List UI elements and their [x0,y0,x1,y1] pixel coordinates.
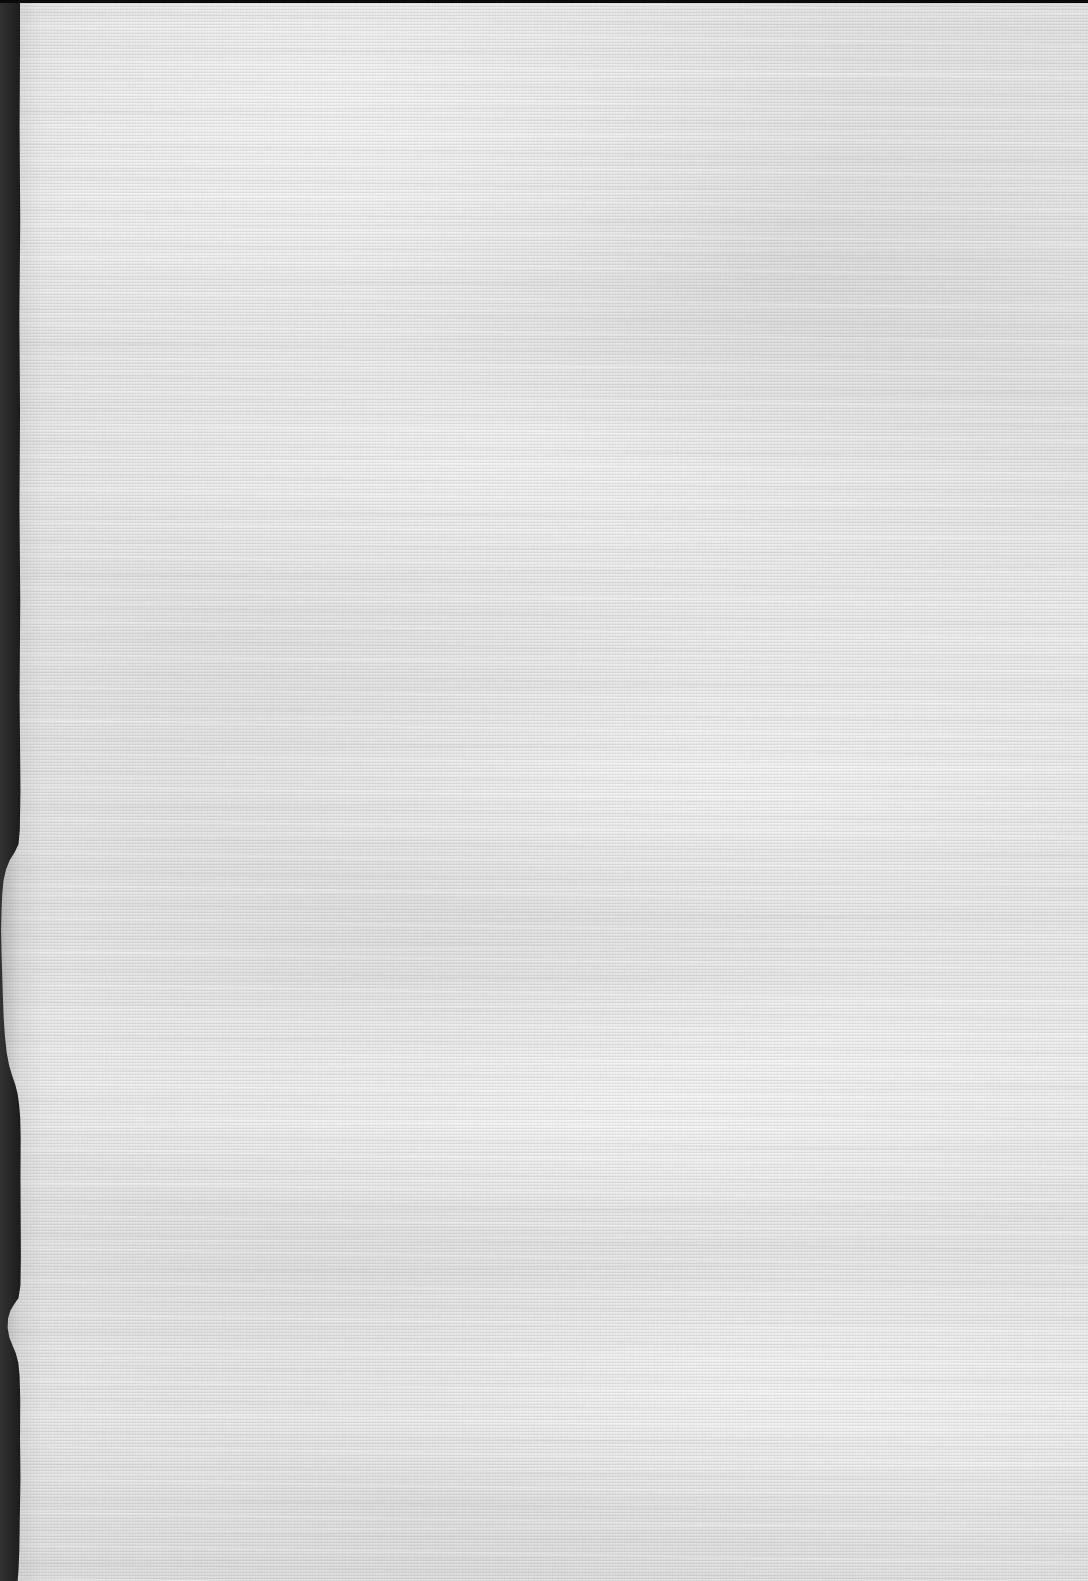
scanner-background-top [0,0,1088,3]
paper-fibre-streaks-layer [0,0,1088,1581]
scanned-page-canvas [0,0,1088,1581]
paper-sheet [0,0,1088,1581]
